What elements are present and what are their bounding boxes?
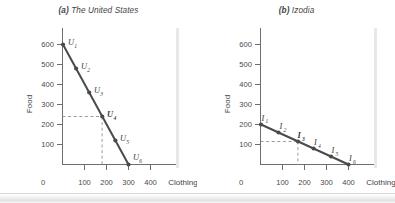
point-label-i1-sub: 1 — [266, 118, 269, 124]
x-tick-label-300: 300 — [320, 178, 333, 187]
x-tick-label-0: 0 — [239, 178, 243, 187]
x-tick-label-400: 400 — [342, 178, 355, 187]
ppf-line-izodia — [261, 125, 349, 165]
panel-a-plot: 600 500 400 300 200 100 0 100 200 300 40… — [0, 0, 197, 193]
y-tick-label-300: 300 — [41, 100, 54, 109]
point-marker-i1 — [259, 122, 263, 126]
point-marker-i6 — [346, 162, 350, 166]
point-marker-u3 — [87, 90, 91, 94]
panel-izodia: (b) Izodia 600 500 400 300 200 100 0 100 — [198, 0, 395, 193]
point-marker-u5 — [113, 138, 117, 142]
y-tick-label-400: 400 — [239, 80, 252, 89]
x-tick-label-300: 300 — [122, 178, 135, 187]
x-tick-label-100: 100 — [276, 178, 289, 187]
point-label-i1: I 1 — [261, 114, 269, 125]
point-label-i3-sub: 3 — [301, 136, 305, 142]
y-axis-title: Food — [25, 95, 34, 113]
point-label-i3-base: I — [297, 131, 302, 140]
x-axis-title: Clothing — [366, 178, 395, 187]
point-marker-u1 — [61, 42, 65, 46]
point-marker-u6 — [126, 162, 130, 166]
point-marker-i2 — [276, 130, 280, 134]
point-marker-i5 — [329, 154, 333, 158]
y-tick-label-100: 100 — [41, 140, 54, 149]
y-tick-label-400: 400 — [41, 80, 54, 89]
point-label-u5: U 5 — [120, 134, 129, 145]
point-label-i2-sub: 2 — [284, 127, 287, 133]
plot-edge-shadow — [374, 28, 377, 168]
y-tick-label-300: 300 — [239, 100, 252, 109]
point-marker-i3 — [296, 139, 300, 143]
point-label-u6-sub: 6 — [139, 158, 142, 164]
point-label-u3: U 3 — [94, 86, 103, 97]
point-label-u4: U 4 — [107, 110, 117, 121]
y-tick-label-200: 200 — [41, 120, 54, 129]
plot-edge-shadow — [176, 28, 179, 168]
y-tick-label-500: 500 — [239, 60, 252, 69]
y-tick-label-100: 100 — [239, 140, 252, 149]
x-tick-label-0: 0 — [41, 178, 45, 187]
point-label-u1: U 1 — [68, 38, 77, 49]
point-label-u4-sub: 4 — [113, 115, 117, 121]
x-tick-label-100: 100 — [78, 178, 91, 187]
point-marker-u2 — [74, 66, 78, 70]
x-axis-title: Clothing — [168, 178, 197, 187]
panel-united-states: (a) The United States 600 500 400 300 20… — [0, 0, 197, 193]
point-label-u1-sub: 1 — [74, 43, 77, 49]
y-tick-label-500: 500 — [41, 60, 54, 69]
y-axis-title: Food — [223, 95, 232, 113]
point-label-u2: U 2 — [81, 62, 90, 73]
y-tick-label-600: 600 — [239, 40, 252, 49]
point-label-u5-sub: 5 — [126, 139, 129, 145]
point-label-i6-sub: 6 — [353, 159, 356, 165]
panel-b-plot: 600 500 400 300 200 100 0 100 200 300 40… — [198, 0, 395, 193]
x-tick-label-200: 200 — [100, 178, 113, 187]
bottom-band — [0, 194, 395, 203]
y-tick-label-200: 200 — [239, 120, 252, 129]
point-label-i4-sub: 4 — [318, 143, 321, 149]
point-marker-u4 — [100, 114, 104, 118]
ppf-line-us — [63, 45, 129, 165]
point-label-i5-sub: 5 — [336, 151, 339, 157]
y-tick-label-600: 600 — [41, 40, 54, 49]
point-label-u2-sub: 2 — [87, 67, 90, 73]
x-tick-label-200: 200 — [298, 178, 311, 187]
point-marker-i4 — [312, 146, 316, 150]
point-label-u6: U 6 — [133, 153, 142, 164]
figure-root: (a) The United States 600 500 400 300 20… — [0, 0, 395, 203]
point-label-u3-sub: 3 — [99, 91, 103, 97]
x-tick-label-400: 400 — [144, 178, 157, 187]
